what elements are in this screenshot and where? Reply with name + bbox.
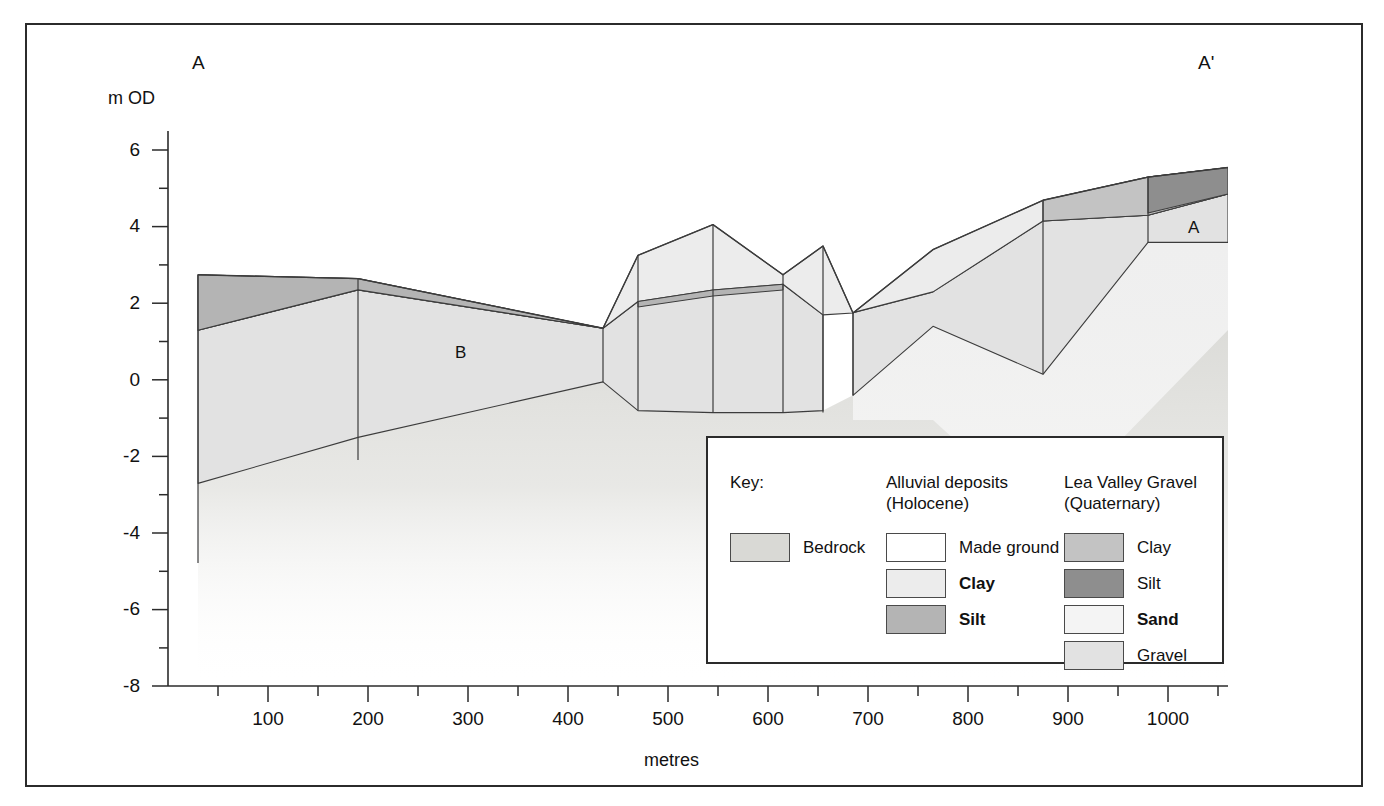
section-label-right: A'	[1198, 52, 1214, 74]
legend-heading-lea-valley: Lea Valley Gravel (Quaternary)	[1064, 472, 1234, 514]
legend-heading-alluvial: Alluvial deposits (Holocene)	[886, 472, 1056, 514]
inline-label-a: A	[1188, 218, 1199, 238]
legend-label-lea-sand: Sand	[1137, 610, 1179, 630]
x-tick-label-900: 900	[1052, 708, 1084, 730]
swatch-bedrock-icon	[730, 533, 790, 562]
legend-key-title: Key:	[730, 472, 900, 493]
legend-box: Key: Bedrock Alluvial deposits (Holocene…	[706, 436, 1224, 664]
swatch-alluvial-clay-icon	[886, 569, 946, 598]
legend-label-lea-clay: Clay	[1137, 538, 1171, 558]
x-tick-label-800: 800	[952, 708, 984, 730]
legend-item-lea-gravel[interactable]: Gravel	[1064, 641, 1234, 670]
inline-label-b: B	[455, 343, 466, 363]
y-tick-label-minus2: -2	[100, 445, 140, 467]
swatch-made-ground-icon	[886, 533, 946, 562]
legend-label-made-ground: Made ground	[959, 538, 1059, 558]
y-tick-label-minus8: -8	[100, 675, 140, 697]
y-axis-ticks	[152, 150, 168, 686]
y-tick-label-minus6: -6	[100, 598, 140, 620]
x-axis-title: metres	[644, 750, 699, 771]
y-tick-label-4: 4	[100, 215, 140, 237]
legend-item-lea-sand[interactable]: Sand	[1064, 605, 1234, 634]
x-tick-label-1000: 1000	[1147, 708, 1189, 730]
legend-label-bedrock: Bedrock	[803, 538, 865, 558]
swatch-alluvial-silt-icon	[886, 605, 946, 634]
x-tick-label-600: 600	[752, 708, 784, 730]
y-axis-title: m OD	[108, 88, 155, 109]
legend-label-lea-silt: Silt	[1137, 574, 1161, 594]
y-tick-label-6: 6	[100, 139, 140, 161]
x-axis-ticks	[218, 686, 1218, 702]
x-tick-label-500: 500	[652, 708, 684, 730]
cross-section-drawing	[0, 0, 1384, 806]
x-tick-label-300: 300	[452, 708, 484, 730]
swatch-lea-clay-icon	[1064, 533, 1124, 562]
legend-item-alluvial-silt[interactable]: Silt	[886, 605, 1056, 634]
x-tick-label-400: 400	[552, 708, 584, 730]
y-tick-label-minus4: -4	[100, 522, 140, 544]
legend-item-made-ground[interactable]: Made ground	[886, 533, 1056, 562]
swatch-lea-sand-icon	[1064, 605, 1124, 634]
section-label-left: A	[192, 52, 205, 74]
legend-label-alluvial-clay: Clay	[959, 574, 995, 594]
legend-label-lea-gravel: Gravel	[1137, 646, 1187, 666]
x-tick-label-700: 700	[852, 708, 884, 730]
figure-page: 6 4 2 0 -2 -4 -6 -8 100 200 300 400 500 …	[0, 0, 1384, 806]
legend-item-lea-clay[interactable]: Clay	[1064, 533, 1234, 562]
y-tick-label-0: 0	[100, 369, 140, 391]
legend-label-alluvial-silt: Silt	[959, 610, 985, 630]
x-tick-label-200: 200	[352, 708, 384, 730]
y-tick-label-2: 2	[100, 292, 140, 314]
legend-item-alluvial-clay[interactable]: Clay	[886, 569, 1056, 598]
swatch-lea-gravel-icon	[1064, 641, 1124, 670]
legend-item-lea-silt[interactable]: Silt	[1064, 569, 1234, 598]
x-tick-label-100: 100	[252, 708, 284, 730]
legend-item-bedrock[interactable]: Bedrock	[730, 533, 900, 562]
swatch-lea-silt-icon	[1064, 569, 1124, 598]
